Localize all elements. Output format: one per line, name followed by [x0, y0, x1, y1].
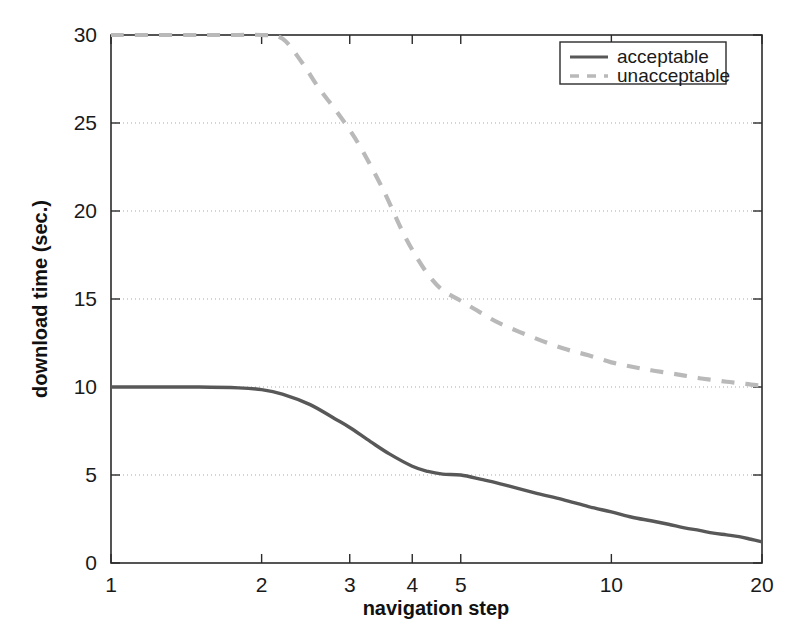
x-tick-label-2: 2	[256, 573, 268, 596]
x-tick-label-1: 1	[105, 573, 117, 596]
x-tick-label-5: 5	[455, 573, 467, 596]
x-tick-label-3: 3	[344, 573, 356, 596]
legend[interactable]: acceptableunacceptable	[560, 42, 730, 86]
y-tick-label-20: 20	[74, 199, 97, 222]
x-tick-label-10: 10	[600, 573, 623, 596]
chart-canvas: 123451020 051015202530 navigation step d…	[0, 0, 804, 642]
legend-label-unacceptable: unacceptable	[617, 65, 730, 86]
y-tick-label-30: 30	[74, 23, 97, 46]
x-tick-label-20: 20	[750, 573, 773, 596]
y-tick-label-25: 25	[74, 111, 97, 134]
y-tick-label-0: 0	[85, 551, 97, 574]
y-tick-label-5: 5	[85, 463, 97, 486]
y-tick-label-10: 10	[74, 375, 97, 398]
figure-background	[0, 0, 804, 642]
x-axis-title: navigation step	[363, 597, 510, 619]
legend-label-acceptable: acceptable	[617, 46, 709, 67]
y-axis-title: download time (sec.)	[29, 200, 51, 398]
y-tick-label-15: 15	[74, 287, 97, 310]
chart-figure: 123451020 051015202530 navigation step d…	[0, 0, 804, 642]
x-tick-label-4: 4	[406, 573, 418, 596]
